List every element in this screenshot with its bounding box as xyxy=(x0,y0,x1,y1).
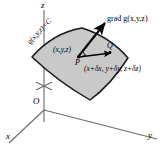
point-q-coords-label: (x+δx, y+δy, z+δz) xyxy=(84,65,141,73)
gradient-label: grad g(x,y,z) xyxy=(107,15,148,23)
point-q-label: Q xyxy=(107,42,113,50)
point-p-label: P xyxy=(75,59,80,67)
z-axis-label: z xyxy=(41,1,45,10)
gradient-level-surface-figure: z x y O g(x,y,z)=C grad g(x,y,z) (x,y,z)… xyxy=(0,0,165,155)
figure-canvas xyxy=(0,0,165,155)
y-axis-label: y xyxy=(148,131,152,140)
y-axis-line xyxy=(44,110,157,139)
point-q-dot xyxy=(109,51,112,54)
point-p-coords-label: (x,y,z) xyxy=(53,46,71,54)
x-axis-label: x xyxy=(6,132,10,141)
origin-label: O xyxy=(33,97,40,106)
x-axis-line xyxy=(9,110,44,143)
